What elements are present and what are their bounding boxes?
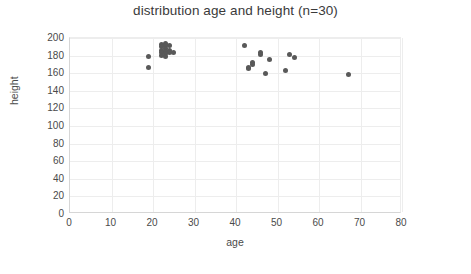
x-tick-label: 20 <box>132 217 172 228</box>
y-tick-label: 200 <box>30 32 64 43</box>
x-tick-label: 60 <box>298 217 338 228</box>
data-point <box>242 43 247 48</box>
x-tick-label: 70 <box>340 217 380 228</box>
plot-area <box>69 37 401 213</box>
data-point <box>263 71 268 76</box>
y-tick-label: 80 <box>30 137 64 148</box>
gridline-vertical <box>195 38 196 212</box>
x-tick-label: 80 <box>381 217 421 228</box>
y-tick-label: 180 <box>30 49 64 60</box>
data-point <box>346 72 351 77</box>
x-tick-label: 0 <box>49 217 89 228</box>
gridline-horizontal <box>70 179 400 180</box>
gridline-vertical <box>319 38 320 212</box>
x-tick-label: 50 <box>257 217 297 228</box>
data-point <box>292 55 297 60</box>
gridline-vertical <box>402 38 403 212</box>
gridline-horizontal <box>70 144 400 145</box>
gridline-vertical <box>361 38 362 212</box>
scatter-chart: distribution age and height (n=30) heigh… <box>0 0 471 274</box>
x-axis-label: age <box>69 236 401 248</box>
gridline-horizontal <box>70 38 400 39</box>
data-point <box>146 54 151 59</box>
y-tick-label: 160 <box>30 67 64 78</box>
data-point <box>163 54 168 59</box>
y-tick-label: 60 <box>30 155 64 166</box>
y-tick-label: 40 <box>30 172 64 183</box>
y-tick-label: 120 <box>30 102 64 113</box>
y-tick-label: 140 <box>30 84 64 95</box>
chart-title: distribution age and height (n=30) <box>0 3 471 18</box>
x-tick-label: 10 <box>91 217 131 228</box>
gridline-horizontal <box>70 56 400 57</box>
gridline-vertical <box>112 38 113 212</box>
gridline-vertical <box>278 38 279 212</box>
data-point <box>246 66 251 71</box>
data-point <box>250 62 255 67</box>
gridline-horizontal <box>70 108 400 109</box>
x-tick-label: 40 <box>215 217 255 228</box>
y-axis-label: height <box>8 76 20 105</box>
x-tick-label: 30 <box>174 217 214 228</box>
data-point <box>267 57 272 62</box>
gridline-horizontal <box>70 91 400 92</box>
y-tick-label: 100 <box>30 120 64 131</box>
data-point <box>167 43 172 48</box>
data-point <box>146 65 151 70</box>
gridline-vertical <box>236 38 237 212</box>
gridline-horizontal <box>70 196 400 197</box>
x-axis-tick-labels: 01020304050607080 <box>0 217 471 233</box>
gridline-horizontal <box>70 161 400 162</box>
y-tick-label: 20 <box>30 190 64 201</box>
gridline-vertical <box>153 38 154 212</box>
gridline-horizontal <box>70 126 400 127</box>
